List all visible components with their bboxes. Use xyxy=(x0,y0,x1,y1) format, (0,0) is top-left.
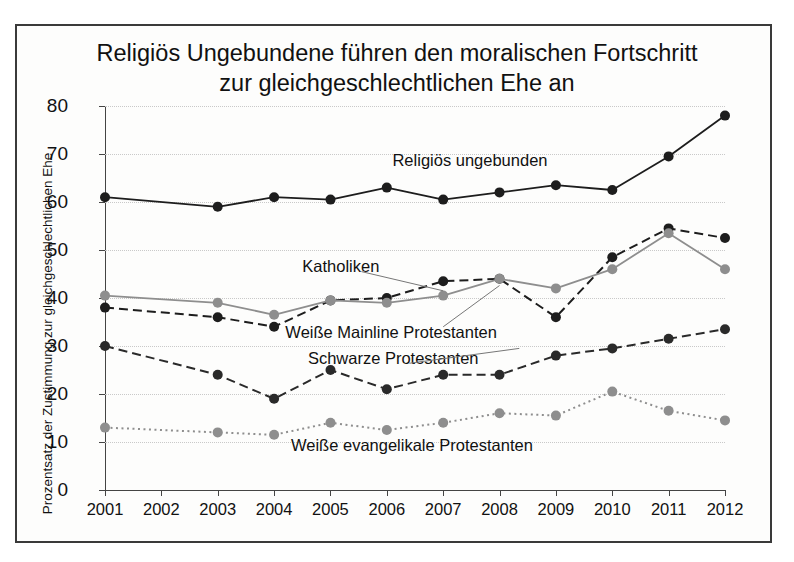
x-tick-mark xyxy=(725,490,726,496)
data-point-marker xyxy=(382,298,392,308)
data-point-marker xyxy=(213,312,223,322)
data-point-marker xyxy=(720,233,730,243)
data-point-marker xyxy=(100,291,110,301)
data-point-marker xyxy=(100,423,110,433)
x-tick-label: 2010 xyxy=(582,500,642,519)
series-line xyxy=(105,228,725,326)
data-point-marker xyxy=(382,425,392,435)
data-point-marker xyxy=(213,427,223,437)
y-tick-label: 40 xyxy=(22,288,68,307)
x-tick-label: 2008 xyxy=(470,500,530,519)
data-point-marker xyxy=(213,298,223,308)
data-point-marker xyxy=(438,418,448,428)
x-tick-label: 2007 xyxy=(413,500,473,519)
data-point-marker xyxy=(269,192,279,202)
data-point-marker xyxy=(438,370,448,380)
x-tick-mark xyxy=(218,490,219,496)
x-tick-mark xyxy=(500,490,501,496)
data-point-marker xyxy=(269,322,279,332)
data-point-marker xyxy=(269,430,279,440)
data-point-marker xyxy=(607,264,617,274)
data-point-marker xyxy=(495,408,505,418)
series-5 xyxy=(100,387,730,440)
chart-figure-frame: Religiös Ungebundene führen den moralisc… xyxy=(15,24,772,543)
data-point-marker xyxy=(382,384,392,394)
series-2 xyxy=(100,223,730,331)
series-annotation-label: Weiße Mainline Protestanten xyxy=(285,323,497,342)
series-annotation-label: Katholiken xyxy=(302,257,379,276)
x-tick-label: 2003 xyxy=(188,500,248,519)
series-line xyxy=(105,392,725,435)
series-annotation-label: Schwarze Protestanten xyxy=(308,349,479,368)
data-point-marker xyxy=(438,276,448,286)
x-tick-label: 2009 xyxy=(526,500,586,519)
y-tick-label: 80 xyxy=(22,96,68,115)
series-line xyxy=(105,233,725,315)
data-point-marker xyxy=(100,303,110,313)
data-point-marker xyxy=(664,406,674,416)
data-point-marker xyxy=(607,387,617,397)
data-point-marker xyxy=(607,343,617,353)
x-tick-mark xyxy=(443,490,444,496)
data-point-marker xyxy=(438,195,448,205)
data-point-marker xyxy=(213,370,223,380)
data-point-marker xyxy=(438,291,448,301)
series-annotation-label: Weiße evangelikale Protestanten xyxy=(291,436,533,455)
data-point-marker xyxy=(664,151,674,161)
data-point-marker xyxy=(551,312,561,322)
x-tick-mark xyxy=(387,490,388,496)
x-axis-line xyxy=(105,490,725,491)
data-point-marker xyxy=(382,183,392,193)
data-point-marker xyxy=(607,185,617,195)
chart-title: Religiös Ungebundene führen den moralisc… xyxy=(77,38,717,98)
data-point-marker xyxy=(720,415,730,425)
x-tick-mark xyxy=(612,490,613,496)
x-tick-label: 2012 xyxy=(695,500,755,519)
y-tick-label: 0 xyxy=(22,480,68,499)
data-point-marker xyxy=(551,283,561,293)
data-point-marker xyxy=(326,195,336,205)
data-point-marker xyxy=(551,351,561,361)
data-point-marker xyxy=(269,394,279,404)
x-tick-mark xyxy=(274,490,275,496)
data-point-marker xyxy=(269,310,279,320)
data-point-marker xyxy=(100,192,110,202)
data-point-marker xyxy=(720,264,730,274)
series-3 xyxy=(100,228,730,320)
data-point-marker xyxy=(664,334,674,344)
data-point-marker xyxy=(495,274,505,284)
x-tick-label: 2004 xyxy=(244,500,304,519)
y-tick-label: 60 xyxy=(22,192,68,211)
series-annotation-label: Religiös ungebunden xyxy=(392,151,547,170)
data-point-marker xyxy=(326,418,336,428)
x-tick-label: 2006 xyxy=(357,500,417,519)
x-tick-mark xyxy=(105,490,106,496)
y-tick-label: 30 xyxy=(22,336,68,355)
x-tick-mark xyxy=(161,490,162,496)
data-point-marker xyxy=(495,370,505,380)
data-point-marker xyxy=(607,252,617,262)
data-point-marker xyxy=(495,187,505,197)
x-tick-label: 2011 xyxy=(639,500,699,519)
data-point-marker xyxy=(100,341,110,351)
data-point-marker xyxy=(720,324,730,334)
data-point-marker xyxy=(326,295,336,305)
data-point-marker xyxy=(720,111,730,121)
x-tick-label: 2002 xyxy=(131,500,191,519)
y-tick-label: 70 xyxy=(22,144,68,163)
data-point-marker xyxy=(551,180,561,190)
data-point-marker xyxy=(664,228,674,238)
y-tick-label: 20 xyxy=(22,384,68,403)
x-tick-mark xyxy=(669,490,670,496)
x-tick-mark xyxy=(330,490,331,496)
x-tick-mark xyxy=(556,490,557,496)
y-tick-label: 50 xyxy=(22,240,68,259)
x-tick-label: 2005 xyxy=(300,500,360,519)
y-tick-label: 10 xyxy=(22,432,68,451)
data-point-marker xyxy=(213,202,223,212)
data-point-marker xyxy=(551,411,561,421)
x-tick-label: 2001 xyxy=(75,500,135,519)
